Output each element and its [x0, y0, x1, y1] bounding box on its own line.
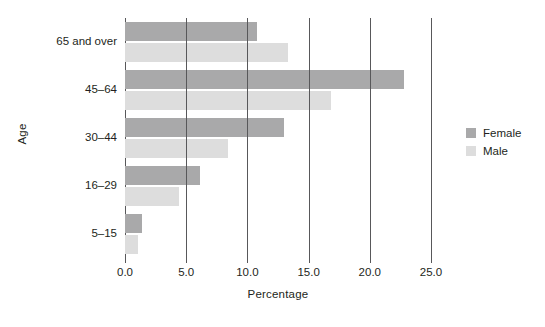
gridline — [431, 18, 432, 258]
bar-female-5–15 — [125, 214, 142, 233]
bar-chart: Age 0.05.010.015.020.025.0 5–1516–2930–4… — [0, 0, 545, 327]
gridline — [309, 18, 310, 258]
y-axis-category-label: 5–15 — [0, 227, 117, 239]
x-axis-tick — [431, 258, 432, 263]
legend-label: Female — [483, 127, 521, 139]
x-axis-title: Percentage — [125, 288, 431, 300]
bar-male-16–29 — [125, 187, 179, 206]
bar-male-5–15 — [125, 235, 138, 254]
x-axis-tick — [186, 258, 187, 263]
y-axis-category-label: 16–29 — [0, 179, 117, 191]
plot-area — [125, 18, 431, 258]
gridline — [247, 18, 248, 258]
x-axis-tick — [247, 258, 248, 263]
y-axis-category-label: 65 and over — [0, 35, 117, 47]
x-axis-tick — [370, 258, 371, 263]
y-axis-category-label: 45–64 — [0, 83, 117, 95]
bar-male-30–44 — [125, 139, 228, 158]
legend-label: Male — [483, 145, 508, 157]
gridline — [186, 18, 187, 258]
legend-swatch-icon — [466, 146, 476, 156]
bar-female-30–44 — [125, 118, 284, 137]
bar-male-45–64 — [125, 91, 331, 110]
x-axis-tick — [309, 258, 310, 263]
x-axis-tick-label: 20.0 — [350, 266, 390, 278]
legend-item: Female — [466, 124, 521, 142]
x-axis-tick-label: 0.0 — [105, 266, 145, 278]
x-axis-tick-label: 10.0 — [227, 266, 267, 278]
bar-female-16–29 — [125, 166, 200, 185]
legend-item: Male — [466, 142, 521, 160]
bar-male-65-and-over — [125, 43, 288, 62]
x-axis-tick — [125, 258, 126, 263]
bar-female-45–64 — [125, 70, 404, 89]
x-axis-tick-label: 5.0 — [166, 266, 206, 278]
y-axis-category-label: 30–44 — [0, 131, 117, 143]
bar-female-65-and-over — [125, 22, 257, 41]
legend-swatch-icon — [466, 128, 476, 138]
x-axis-tick-label: 25.0 — [411, 266, 451, 278]
gridline — [370, 18, 371, 258]
chart-legend: FemaleMale — [466, 124, 521, 160]
x-axis-tick-label: 15.0 — [289, 266, 329, 278]
